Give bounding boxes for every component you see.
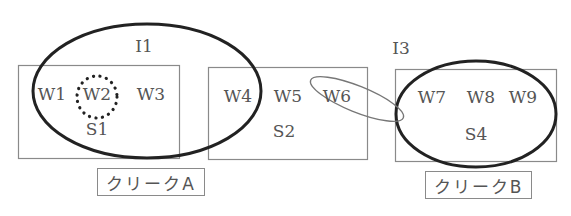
clique-diagram: I1 I3 W1 W2 W3 S1 W4 W5 W6 S2 W7 W8 W9 S… [0,0,571,216]
word-w8: W8 [467,88,495,106]
set-box-s1 [19,66,180,159]
word-w9: W9 [509,88,537,106]
set-label-s2: S2 [273,122,295,140]
set-label-s4: S4 [465,125,487,143]
word-w2: W2 [83,85,111,103]
link-ellipse-w6 [306,68,408,130]
caption-clique-b: クリークB [425,171,532,199]
set-box-s4 [396,70,557,162]
cluster-label-i1: I1 [135,37,153,55]
caption-clique-a: クリークA [97,168,205,196]
word-w1: W1 [38,85,66,103]
word-w5: W5 [274,87,302,105]
set-box-s2 [209,68,368,160]
set-label-s1: S1 [86,120,108,138]
word-w7: W7 [418,88,446,106]
cluster-label-i3: I3 [392,39,410,57]
word-w6: W6 [323,87,351,105]
word-w3: W3 [137,85,165,103]
word-w4: W4 [224,87,252,105]
cluster-ellipse-i3 [396,61,556,167]
